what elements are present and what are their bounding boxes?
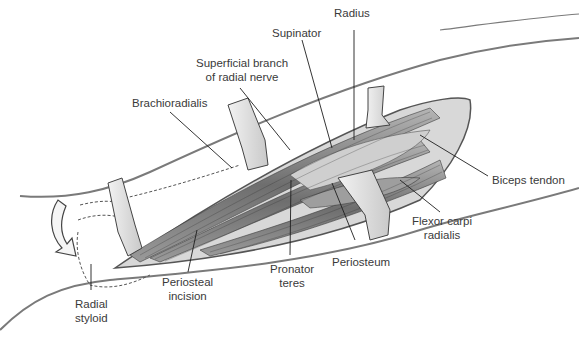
label-periosteum: Periosteum (332, 255, 390, 269)
label-radius: Radius (334, 6, 370, 20)
label-brachioradialis: Brachioradialis (132, 96, 207, 110)
label-periosteal-incision: Periostealincision (162, 275, 213, 303)
retractor-proximal-top (366, 86, 390, 128)
label-supinator: Supinator (272, 26, 321, 40)
label-flexor-carpi-radialis: Flexor carpiradialis (412, 214, 472, 242)
label-pronator-teres: Pronatorteres (270, 262, 314, 290)
label-biceps-tendon: Biceps tendon (492, 173, 565, 187)
curved-arrow-icon (52, 200, 76, 256)
label-superficial-branch-radial-nerve: Superficial branchof radial nerve (196, 56, 288, 84)
retractor-distal (108, 178, 142, 256)
label-radial-styloid: Radialstyloid (75, 297, 108, 325)
